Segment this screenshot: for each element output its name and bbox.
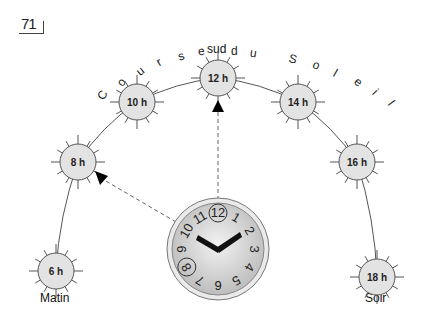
clock-number: 9	[174, 245, 189, 252]
pointer-arrow-12h	[212, 100, 224, 112]
sun-time-label: 16 h	[347, 157, 367, 168]
sun-icon: 12 h	[191, 51, 245, 105]
sun-icon: 16 h	[330, 135, 384, 189]
clock-number: 3	[247, 245, 262, 252]
sun-course-diagram: 6 h8 h10 h12 h14 h16 h18 h 1212345678910…	[0, 0, 430, 318]
sun-icon: 18 h	[350, 250, 404, 304]
clock-icon: 121234567891011	[167, 198, 269, 300]
sun-time-label: 6 h	[49, 266, 63, 277]
sun-icon: 14 h	[271, 75, 325, 129]
sun-icon: 8 h	[51, 135, 105, 189]
sun-icon: 6 h	[29, 244, 83, 298]
sun-time-label: 12 h	[208, 73, 228, 84]
clock-number: 12	[211, 205, 225, 220]
sun-icon: 10 h	[110, 75, 164, 129]
sun-time-label: 10 h	[127, 97, 147, 108]
sun-time-label: 14 h	[288, 97, 308, 108]
clock-number: 6	[214, 278, 221, 293]
pointer-arrow-8h	[95, 171, 108, 185]
sun-time-label: 18 h	[367, 272, 387, 283]
sun-time-label: 8 h	[71, 157, 85, 168]
